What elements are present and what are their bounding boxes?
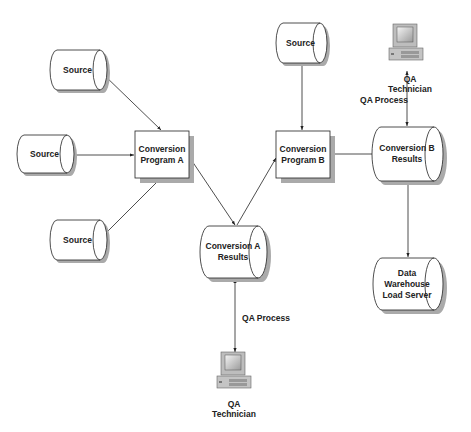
- conversion-program-b-box: [276, 131, 335, 183]
- edge-source1-to-progA: [102, 73, 161, 130]
- edges: [71, 63, 408, 352]
- conversion-program-a-box: [135, 131, 194, 183]
- qa-technician-top-label: QA Technician: [380, 74, 440, 94]
- data-flow-diagram: [0, 0, 471, 432]
- source-2-cylinder: [17, 135, 77, 176]
- computer-icon: [389, 24, 423, 60]
- qa-process-top-label: QA Process: [360, 95, 408, 105]
- conversion-a-results-cylinder: [200, 226, 271, 282]
- edge-resultsA-to-progB: [237, 158, 276, 225]
- computer-icon: [217, 352, 251, 388]
- edge-source3-to-progA: [102, 178, 161, 237]
- qa-process-bottom-label: QA Process: [242, 313, 290, 323]
- data-warehouse-cylinder: [373, 258, 447, 314]
- source-3-cylinder: [50, 220, 110, 263]
- source-4-cylinder: [276, 23, 330, 66]
- edge-progA-to-resultsA: [188, 155, 235, 225]
- qa-technician-bottom-label: QA Technician: [204, 399, 264, 419]
- source-1-cylinder: [50, 50, 110, 93]
- conversion-b-results-cylinder: [372, 127, 447, 185]
